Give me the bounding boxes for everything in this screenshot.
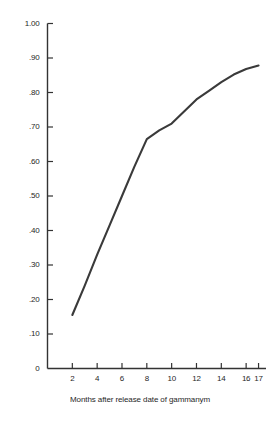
x-tick-label: 10 <box>162 375 182 383</box>
x-tick-label: 17 <box>249 375 269 383</box>
x-axis-title: Months after release date of gammanym <box>0 396 280 404</box>
series-line <box>72 66 258 315</box>
x-tick-label: 4 <box>87 375 107 383</box>
y-tick-label: .40 <box>10 227 40 235</box>
y-tick-label: .80 <box>10 89 40 97</box>
y-tick-label: 0 <box>10 365 40 373</box>
tick-marks <box>48 24 259 369</box>
y-tick-label: .20 <box>10 296 40 304</box>
x-tick-label: 12 <box>186 375 206 383</box>
y-tick-label: .90 <box>10 54 40 62</box>
y-tick-label: .30 <box>10 261 40 269</box>
data-series <box>72 66 258 315</box>
x-tick-label: 14 <box>211 375 231 383</box>
x-tick-label: 2 <box>62 375 82 383</box>
x-tick-label: 6 <box>112 375 132 383</box>
y-tick-label: .70 <box>10 123 40 131</box>
y-tick-label: .50 <box>10 192 40 200</box>
line-chart: 0.10.20.30.40.50.60.70.80.901.00 2468101… <box>0 0 280 421</box>
y-tick-label: 1.00 <box>10 20 40 28</box>
y-tick-label: .60 <box>10 158 40 166</box>
plot-area <box>0 0 280 421</box>
x-tick-label: 8 <box>137 375 157 383</box>
y-tick-label: .10 <box>10 330 40 338</box>
